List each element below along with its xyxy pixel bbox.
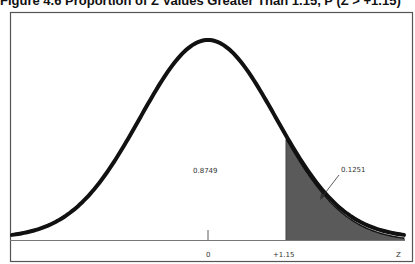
axis-label-z: Z xyxy=(396,251,401,259)
right-area-label: 0.1251 xyxy=(341,166,366,174)
left-area-label: 0.8749 xyxy=(193,167,218,175)
tick-label-cutoff: +1.15 xyxy=(273,251,294,259)
tick-label-zero: 0 xyxy=(206,251,210,259)
normal-curve-chart: 0.1251 0.8749 0 +1.15 Z xyxy=(0,0,415,264)
normal-curve xyxy=(12,40,404,235)
shaded-tail-region xyxy=(286,135,405,240)
annotation-arrow xyxy=(322,175,339,197)
